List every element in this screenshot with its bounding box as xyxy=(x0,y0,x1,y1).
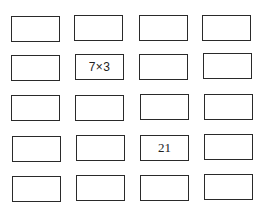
grid-cell-r5-c3 xyxy=(140,175,189,201)
grid-cell-r4-c4 xyxy=(204,134,253,160)
grid-cell-r5-c1 xyxy=(12,176,61,202)
grid-cell-r2-c2: 7×3 xyxy=(75,54,124,80)
grid-cell-r3-c3 xyxy=(140,94,189,120)
grid-cell-r4-c2 xyxy=(76,135,125,161)
grid-cell-r2-c1 xyxy=(11,55,60,81)
grid-cell-r1-c1 xyxy=(11,16,60,42)
grid-cell-r5-c2 xyxy=(76,175,125,201)
grid-cell-r5-c4 xyxy=(204,174,253,200)
grid-cell-r1-c3 xyxy=(139,15,188,41)
card-grid: 7×3 21 xyxy=(0,0,265,211)
grid-cell-r1-c2 xyxy=(74,15,123,41)
grid-cell-r3-c4 xyxy=(204,94,253,120)
expression-label: 7×3 xyxy=(89,60,110,74)
grid-cell-r2-c3 xyxy=(139,54,188,80)
grid-cell-r4-c3: 21 xyxy=(140,135,189,161)
grid-cell-r2-c4 xyxy=(203,53,252,79)
grid-cell-r1-c4 xyxy=(202,15,251,41)
grid-cell-r3-c1 xyxy=(11,95,60,121)
grid-cell-r3-c2 xyxy=(75,95,124,121)
grid-cell-r4-c1 xyxy=(12,136,61,162)
result-label: 21 xyxy=(158,140,171,156)
